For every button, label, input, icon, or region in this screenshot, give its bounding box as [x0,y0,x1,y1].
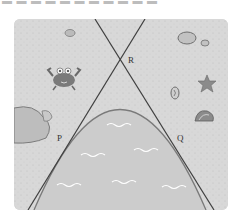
point-label-P: P [57,133,62,143]
beach-diagram: R P Q [14,19,228,210]
cropped-text: ▬ ▬ ▬ ▬ ▬ ▬ ▬ ▬ ▬ ▬ ▬ [2,0,158,6]
diagram-canvas [14,19,228,210]
pebble-top [65,30,75,37]
shell-icon-1 [171,87,179,99]
point-label-R: R [128,55,134,65]
point-label-Q: Q [177,133,184,143]
cropped-header-text: ▬ ▬ ▬ ▬ ▬ ▬ ▬ ▬ ▬ ▬ ▬ [0,0,240,8]
rock-left [14,107,52,143]
